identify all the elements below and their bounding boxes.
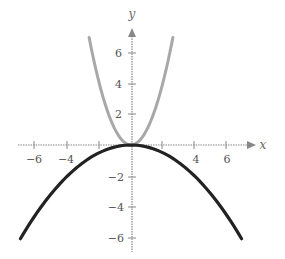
- y-tick-label: −6: [108, 232, 124, 245]
- curve-downward-parabola: [20, 145, 241, 239]
- x-axis: −6 −4 4 6 x: [18, 138, 267, 166]
- y-tick-label: 2: [115, 108, 122, 121]
- x-tick-label: 4: [193, 153, 200, 166]
- x-tick-label: 6: [224, 153, 231, 166]
- y-axis-arrow-icon: [128, 28, 136, 37]
- x-axis-label: x: [260, 138, 267, 152]
- y-tick-label: −2: [108, 171, 124, 184]
- x-tick-label: −4: [58, 153, 74, 166]
- curve-upward-parabola: [89, 38, 173, 145]
- y-tick-label: 4: [115, 78, 122, 91]
- y-tick-label: 6: [115, 47, 122, 60]
- y-tick-label: −4: [108, 201, 124, 214]
- x-tick-label: −6: [26, 153, 42, 166]
- x-axis-arrow-icon: [247, 141, 256, 149]
- y-axis-label: y: [128, 7, 136, 21]
- curves: [20, 38, 241, 239]
- y-axis: 6 4 2 −2 −4 −6 y: [108, 7, 136, 252]
- parabola-graph: −6 −4 4 6 x 6 4 2 −2 −4 −6 y: [0, 0, 285, 259]
